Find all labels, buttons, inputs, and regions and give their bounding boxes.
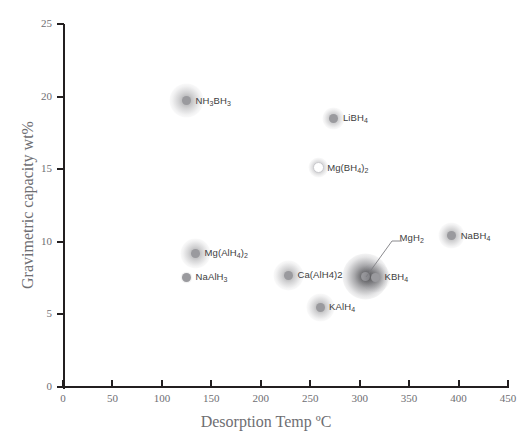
- point-label-Ca(AlH4)2: Ca(AlH4)2: [297, 269, 342, 280]
- plot-area: [63, 24, 508, 387]
- data-point-Mg(AlH4)2[interactable]: [195, 253, 196, 254]
- marker-dot: [447, 231, 456, 240]
- point-label-Mg(BH4)2: Mg(BH4)2: [327, 162, 368, 173]
- marker-dot: [316, 303, 325, 312]
- data-point-Mg(BH4)2[interactable]: [318, 167, 319, 168]
- data-point-LiBH4[interactable]: [333, 118, 334, 119]
- marker-dot: [329, 114, 338, 123]
- x-tick-label-150: 150: [191, 392, 231, 404]
- marker-dot: [182, 96, 191, 105]
- x-tick-label-350: 350: [389, 392, 429, 404]
- data-point-NaAlH3[interactable]: [186, 277, 187, 278]
- point-label-NaBH4: NaBH4: [461, 230, 491, 241]
- leader-line-MgH2: [362, 235, 422, 295]
- point-label-NaAlH3: NaAlH3: [196, 271, 228, 282]
- point-label-NH3BH3: NH3BH3: [196, 95, 231, 106]
- marker-dot: [371, 273, 380, 282]
- y-axis-title: Gravimetric capacity wt%: [19, 45, 37, 365]
- data-point-KBH4[interactable]: [375, 277, 376, 278]
- x-tick-label-300: 300: [340, 392, 380, 404]
- data-point-NH3BH3[interactable]: [186, 100, 187, 101]
- x-axis-title: Desorption Temp ºC: [0, 413, 532, 431]
- point-label-KBH4: KBH4: [384, 271, 408, 282]
- marker-dot: [313, 162, 324, 173]
- point-label-Mg(AlH4)2: Mg(AlH4)2: [205, 247, 249, 258]
- y-tick-label-25: 25: [18, 17, 52, 29]
- data-point-NaBH4[interactable]: [451, 235, 452, 236]
- scatter-chart: 0510152025 050100150200250300350400450 D…: [0, 0, 532, 447]
- marker-dot: [182, 273, 191, 282]
- x-tick-label-0: 0: [43, 392, 83, 404]
- x-tick-label-400: 400: [439, 392, 479, 404]
- x-tick-label-450: 450: [488, 392, 528, 404]
- data-point-Ca(AlH4)2[interactable]: [288, 275, 289, 276]
- marker-dot: [191, 249, 200, 258]
- point-label-LiBH4: LiBH4: [343, 112, 368, 123]
- x-tick-label-100: 100: [142, 392, 182, 404]
- x-tick-label-200: 200: [241, 392, 281, 404]
- x-tick-label-50: 50: [92, 392, 132, 404]
- point-label-KAlH4: KAlH4: [329, 301, 355, 312]
- data-point-KAlH4[interactable]: [320, 307, 321, 308]
- y-tick-label-0: 0: [18, 380, 52, 392]
- x-tick-label-250: 250: [290, 392, 330, 404]
- marker-dot: [284, 271, 293, 280]
